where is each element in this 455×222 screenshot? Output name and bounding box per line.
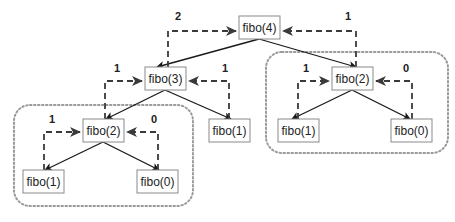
node-fibo1-middle: fibo(1)	[209, 119, 250, 142]
fibonacci-recursion-diagram: 2 1 1 1 1 0 1 0 fibo(4) fibo(3) fibo(2) …	[0, 0, 455, 222]
node-fibo0-bottom-left: fibo(0)	[137, 170, 178, 193]
return-label: 1	[114, 62, 120, 74]
return-label: 1	[303, 62, 309, 74]
return-fibo1l-to-fibo2l	[44, 132, 80, 170]
node-label: fibo(2)	[86, 124, 120, 138]
node-label: fibo(1)	[26, 175, 60, 189]
node-fibo4: fibo(4)	[239, 16, 280, 39]
return-arrows	[44, 31, 412, 170]
node-fibo1-right: fibo(1)	[278, 119, 319, 142]
return-label: 2	[175, 10, 181, 22]
node-fibo1-bottom-left: fibo(1)	[23, 170, 64, 193]
node-label: fibo(4)	[242, 21, 276, 35]
edge-fibo2l-fibo0	[103, 142, 159, 170]
return-label: 1	[49, 113, 55, 125]
return-label: 1	[345, 10, 351, 22]
edge-fibo4-fibo3	[157, 39, 259, 67]
node-label: fibo(1)	[212, 124, 246, 138]
node-fibo2-right: fibo(2)	[332, 67, 373, 90]
edge-fibo2r-fibo0	[352, 90, 410, 119]
node-label: fibo(0)	[394, 124, 428, 138]
return-label: 1	[222, 62, 228, 74]
node-label: fibo(0)	[140, 175, 174, 189]
return-fibo0l-to-fibo2l	[127, 132, 158, 170]
node-fibo2-left: fibo(2)	[83, 119, 124, 142]
node-label: fibo(1)	[281, 124, 315, 138]
node-fibo3: fibo(3)	[145, 67, 186, 90]
node-label: fibo(2)	[335, 72, 369, 86]
node-label: fibo(3)	[148, 72, 182, 86]
edge-fibo2r-fibo1	[292, 90, 352, 119]
edge-fibo2l-fibo1	[45, 142, 103, 170]
return-fibo2l-to-fibo3	[105, 81, 142, 119]
return-label: 0	[403, 62, 409, 74]
return-fibo1-to-fibo3	[189, 81, 229, 119]
return-label: 0	[151, 113, 157, 125]
return-fibo0r-to-fibo2r	[376, 81, 412, 119]
node-fibo0-right: fibo(0)	[391, 119, 432, 142]
